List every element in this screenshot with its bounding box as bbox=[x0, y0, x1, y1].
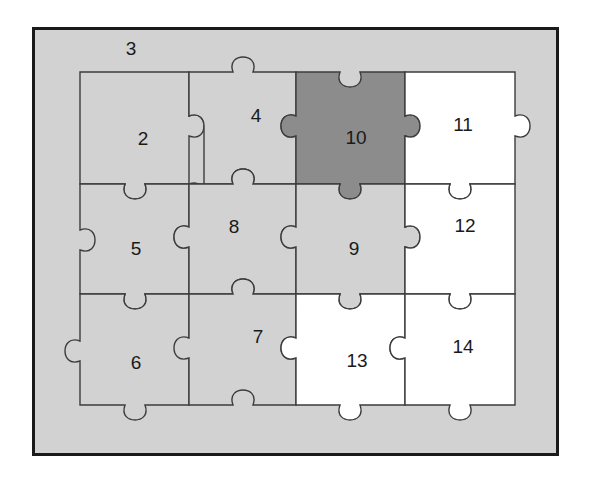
label-3: 3 bbox=[126, 38, 137, 59]
label-11: 11 bbox=[453, 114, 473, 135]
piece-7[interactable] bbox=[174, 279, 296, 405]
puzzle-figure: 3 2 4 10 11 5 8 9 12 6 7 13 14 bbox=[0, 0, 593, 482]
label-5: 5 bbox=[131, 238, 142, 259]
label-14: 14 bbox=[452, 336, 474, 357]
label-6: 6 bbox=[131, 352, 142, 373]
label-2: 2 bbox=[138, 128, 149, 149]
label-8: 8 bbox=[229, 216, 240, 237]
piece-11[interactable] bbox=[405, 72, 530, 199]
piece-12[interactable] bbox=[405, 184, 515, 309]
label-13: 13 bbox=[346, 350, 367, 371]
label-12: 12 bbox=[454, 215, 475, 236]
label-7: 7 bbox=[253, 326, 264, 347]
puzzle-diagram-canvas: 3 2 4 10 11 5 8 9 12 6 7 13 14 bbox=[0, 0, 593, 482]
label-4: 4 bbox=[251, 105, 262, 126]
label-9: 9 bbox=[349, 238, 360, 259]
label-10: 10 bbox=[345, 127, 366, 148]
piece-13[interactable] bbox=[281, 294, 405, 420]
